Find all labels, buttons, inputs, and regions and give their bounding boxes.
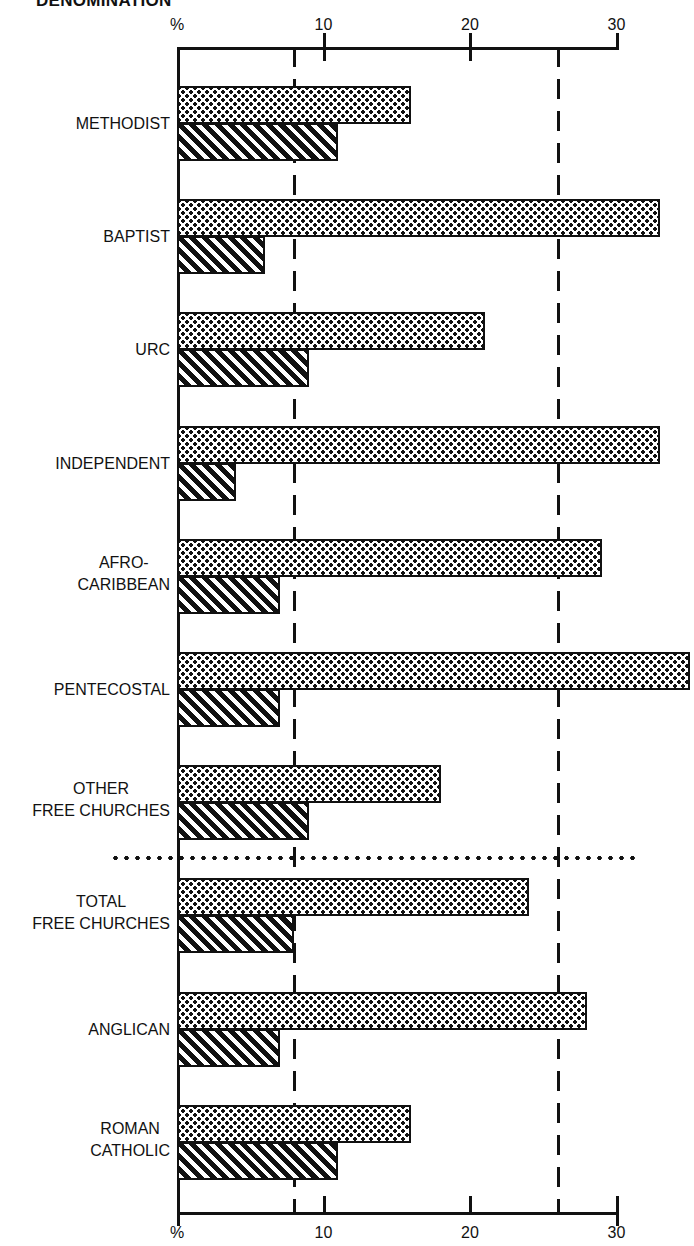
category-label-line: AFRO-: [78, 552, 170, 574]
top-axis-tick-label: 30: [608, 16, 626, 34]
top-axis-tick: [323, 33, 326, 61]
bar-hatched-afro-caribbean: [177, 576, 280, 614]
bar-hatched-total-free-churches: [177, 915, 294, 953]
bottom-axis-tick: [323, 1196, 326, 1214]
bar-dotted-baptist: [177, 199, 660, 237]
bar-dotted-anglican: [177, 992, 587, 1030]
category-label-line: ROMAN: [90, 1118, 170, 1140]
bar-dotted-methodist: [177, 86, 411, 124]
bottom-axis-tick-label: 30: [608, 1224, 626, 1242]
category-label-line: URC: [135, 339, 170, 361]
chart-title: DENOMINATION: [36, 0, 172, 11]
category-label-pentecostal: PENTECOSTAL: [54, 679, 170, 701]
bottom-axis-tick-label: 20: [461, 1224, 479, 1242]
bar-hatched-pentecostal: [177, 689, 280, 727]
top-axis-tick: [469, 33, 472, 61]
bar-hatched-baptist: [177, 236, 265, 274]
bar-hatched-other-free-churches: [177, 802, 309, 840]
bar-hatched-roman-catholic: [177, 1142, 338, 1180]
category-label-line: INDEPENDENT: [55, 453, 170, 475]
category-label-roman-catholic: ROMANCATHOLIC: [90, 1118, 170, 1162]
category-label-line: FREE CHURCHES: [32, 800, 170, 822]
bottom-axis-tick: [616, 1196, 619, 1226]
category-label-other-free-churches: OTHERFREE CHURCHES: [32, 778, 170, 822]
category-label-line: METHODIST: [76, 113, 170, 135]
bar-dotted-total-free-churches: [177, 878, 529, 916]
top-axis-tick-label: 10: [315, 16, 333, 34]
category-label-methodist: METHODIST: [76, 113, 170, 135]
bar-dotted-independent: [177, 426, 660, 464]
category-label-line: ANGLICAN: [88, 1019, 170, 1041]
bottom-axis-tick: [469, 1196, 472, 1214]
category-label-line: CARIBBEAN: [78, 574, 170, 596]
category-label-line: CATHOLIC: [90, 1140, 170, 1162]
category-label-line: BAPTIST: [103, 226, 170, 248]
bar-dotted-roman-catholic: [177, 1105, 411, 1143]
bar-dotted-pentecostal: [177, 652, 690, 690]
bottom-axis-unit-label: %: [170, 1224, 184, 1242]
category-label-line: PENTECOSTAL: [54, 679, 170, 701]
category-label-independent: INDEPENDENT: [55, 453, 170, 475]
top-axis-tick-label: 20: [461, 16, 479, 34]
category-label-line: FREE CHURCHES: [32, 913, 170, 935]
group-separator-dotted-line: [110, 856, 640, 860]
category-label-afro-caribbean: AFRO-CARIBBEAN: [78, 552, 170, 596]
bar-hatched-urc: [177, 349, 309, 387]
top-x-axis: [177, 47, 619, 50]
bar-dotted-urc: [177, 312, 485, 350]
bar-hatched-anglican: [177, 1029, 280, 1067]
category-label-line: OTHER: [32, 778, 170, 800]
category-label-urc: URC: [135, 339, 170, 361]
category-label-baptist: BAPTIST: [103, 226, 170, 248]
category-label-anglican: ANGLICAN: [88, 1019, 170, 1041]
category-label-total-free-churches: TOTALFREE CHURCHES: [32, 891, 170, 935]
bar-dotted-afro-caribbean: [177, 539, 602, 577]
top-axis-unit-label: %: [170, 16, 184, 34]
bottom-axis-tick-label: 10: [315, 1224, 333, 1242]
bottom-x-axis: [177, 1212, 619, 1215]
bar-hatched-methodist: [177, 123, 338, 161]
bar-dotted-other-free-churches: [177, 765, 441, 803]
category-label-line: TOTAL: [32, 891, 170, 913]
top-axis-tick: [616, 33, 619, 50]
bar-hatched-independent: [177, 463, 236, 501]
